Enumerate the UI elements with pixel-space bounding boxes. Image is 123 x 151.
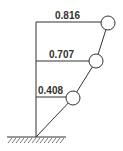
mode-shape-diagram: 0.816 0.707 0.408 <box>0 0 123 151</box>
mass-2-icon <box>89 54 103 68</box>
level-2-label: 0.707 <box>49 49 74 60</box>
ground-hatch <box>8 138 64 143</box>
level-1-label: 0.408 <box>38 85 63 96</box>
mode-shape-curve <box>36 23 108 137</box>
mass-1-icon <box>66 91 80 105</box>
mass-3-icon <box>101 16 115 30</box>
level-3-label: 0.816 <box>55 10 80 21</box>
